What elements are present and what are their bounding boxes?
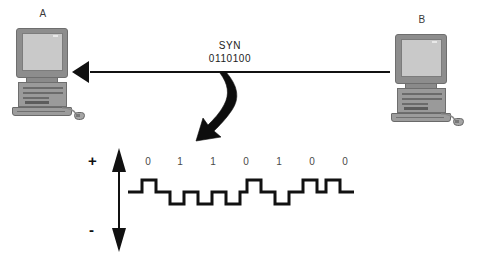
- diagram-canvas: A B: [0, 0, 479, 259]
- signal-waveform: [0, 0, 479, 259]
